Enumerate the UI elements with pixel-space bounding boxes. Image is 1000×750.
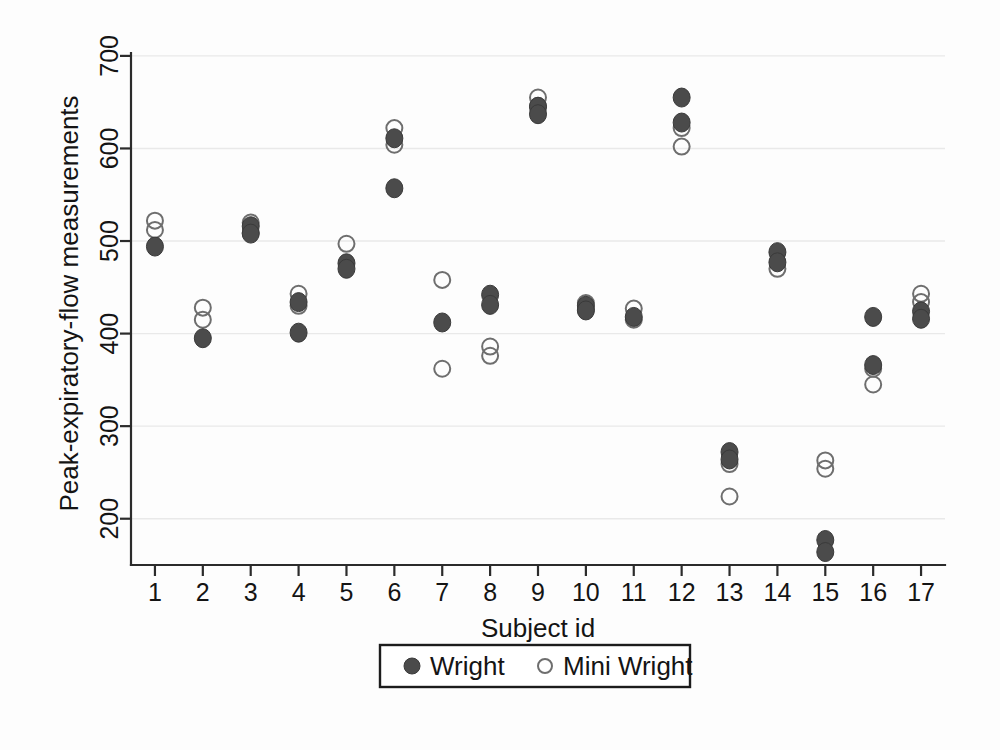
- data-point-wright: [865, 307, 882, 326]
- legend[interactable]: WrightMini Wright: [380, 645, 693, 687]
- data-point-wright: [482, 295, 499, 314]
- ticks-layer: [120, 56, 921, 576]
- data-point-mini-wright: [434, 361, 450, 377]
- data-point-wright: [769, 253, 786, 272]
- data-point-mini-wright: [865, 376, 881, 392]
- x-tick-label-9: 9: [531, 578, 545, 606]
- data-point-mini-wright: [434, 272, 450, 288]
- x-tick-label-13: 13: [716, 578, 744, 606]
- data-point-wright: [338, 259, 355, 278]
- y-tick-label-400: 400: [95, 313, 123, 355]
- y-tick-label-200: 200: [95, 498, 123, 540]
- legend-marker-wright: [404, 658, 420, 674]
- data-point-mini-wright: [722, 489, 738, 505]
- x-tick-label-8: 8: [483, 578, 497, 606]
- data-point-mini-wright: [338, 236, 354, 252]
- data-point-wright: [673, 113, 690, 132]
- x-tick-label-12: 12: [668, 578, 696, 606]
- y-tick-label-500: 500: [95, 220, 123, 262]
- x-tick-label-17: 17: [907, 578, 935, 606]
- data-point-wright: [913, 309, 930, 328]
- data-point-wright: [817, 543, 834, 562]
- x-tick-label-14: 14: [764, 578, 792, 606]
- x-tick-label-5: 5: [340, 578, 354, 606]
- axes-layer: [131, 53, 945, 565]
- data-point-wright: [865, 356, 882, 375]
- x-axis-title: Subject id: [481, 613, 595, 643]
- data-point-wright: [290, 323, 307, 342]
- x-tick-label-10: 10: [572, 578, 600, 606]
- scatter-plot: 1234567891011121314151617 20030040050060…: [0, 0, 1000, 750]
- grid-layer: [131, 56, 945, 519]
- data-point-mini-wright: [674, 139, 690, 155]
- data-point-mini-wright: [482, 348, 498, 364]
- figure-canvas: 1234567891011121314151617 20030040050060…: [0, 0, 1000, 750]
- x-tick-label-3: 3: [244, 578, 258, 606]
- data-point-wright: [625, 307, 642, 326]
- axis-titles-layer: Subject idPeak-expiratory-flow measureme…: [54, 95, 595, 643]
- data-point-mini-wright: [147, 222, 163, 238]
- data-point-mini-wright: [147, 213, 163, 229]
- x-tick-label-1: 1: [148, 578, 162, 606]
- data-point-wright: [146, 237, 163, 256]
- y-tick-labels: 200300400500600700: [95, 35, 123, 540]
- data-point-wright: [386, 129, 403, 148]
- data-point-wright: [194, 329, 211, 348]
- legend-label-mini-wright: Mini Wright: [563, 651, 693, 681]
- data-point-wright: [434, 313, 451, 332]
- legend-label-wright: Wright: [430, 651, 505, 681]
- data-point-wright: [673, 88, 690, 107]
- data-point-wright: [290, 293, 307, 312]
- data-point-wright: [577, 301, 594, 320]
- y-tick-label-700: 700: [95, 35, 123, 77]
- x-tick-label-2: 2: [196, 578, 210, 606]
- x-tick-label-11: 11: [621, 578, 647, 606]
- y-tick-label-600: 600: [95, 128, 123, 170]
- y-axis-title: Peak-expiratory-flow measurements: [54, 95, 84, 511]
- x-tick-label-15: 15: [811, 578, 839, 606]
- data-point-wright: [721, 450, 738, 469]
- y-tick-label-300: 300: [95, 405, 123, 447]
- x-tick-labels: 1234567891011121314151617: [148, 578, 935, 606]
- x-tick-label-4: 4: [292, 578, 306, 606]
- data-point-wright: [242, 224, 259, 243]
- data-point-wright: [530, 105, 547, 124]
- x-tick-label-6: 6: [387, 578, 401, 606]
- data-point-mini-wright: [195, 312, 211, 328]
- x-tick-label-16: 16: [859, 578, 887, 606]
- x-tick-label-7: 7: [435, 578, 449, 606]
- data-points-layer: [146, 88, 929, 562]
- data-point-wright: [386, 179, 403, 198]
- data-point-mini-wright: [482, 339, 498, 355]
